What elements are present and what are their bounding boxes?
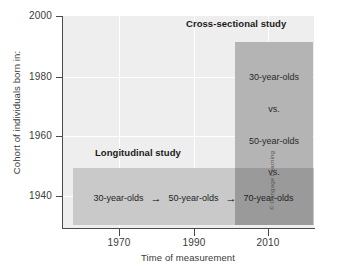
y-axis-tick	[56, 196, 63, 197]
x-axis-tick-label: 2010	[238, 237, 298, 248]
longitudinal-item: 50-year-olds	[167, 193, 219, 203]
x-axis-tick-label: 1990	[164, 237, 224, 248]
x-axis-tick	[119, 229, 120, 236]
arrow-right-icon: →	[144, 194, 167, 203]
y-axis-tick-label: 1980	[0, 71, 52, 82]
x-axis-tick	[194, 229, 195, 236]
x-axis-tick	[268, 229, 269, 236]
y-axis-tick	[56, 136, 63, 137]
y-axis-tick-label: 1960	[0, 130, 52, 141]
cross-sectional-study-label: Cross-sectional study	[186, 18, 286, 29]
copyright-credit: © Cengage Learning	[269, 80, 275, 210]
x-axis-line	[62, 228, 315, 229]
y-axis-tick-label: 2000	[0, 10, 52, 21]
y-axis-tick	[56, 16, 63, 17]
longitudinal-sequence: 30-year-olds → 50-year-olds → 70-year-ol…	[73, 191, 314, 205]
x-axis-title: Time of measurement	[62, 252, 314, 263]
figure-container: Cohort of individuals born in: 2000 1980…	[0, 0, 347, 271]
arrow-right-icon: →	[220, 194, 243, 203]
y-axis-tick	[56, 77, 63, 78]
longitudinal-item: 30-year-olds	[92, 193, 144, 203]
y-axis-tick-label: 1940	[0, 190, 52, 201]
x-axis-tick-label: 1970	[89, 237, 149, 248]
y-axis-title: Cohort of individuals born in:	[11, 13, 22, 213]
longitudinal-study-label: Longitudinal study	[95, 147, 181, 158]
